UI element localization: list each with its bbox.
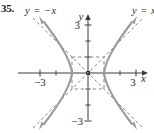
curve-right-branch-lower (104, 73, 132, 124)
curve-left-branch-lower (44, 73, 72, 124)
y-tick-label-3: 3 (75, 19, 81, 31)
arrow-right-lower-icon (132, 122, 137, 131)
y-axis-arrow-icon (85, 14, 91, 20)
curve-right-branch-upper (104, 22, 132, 73)
x-axis-label: x (140, 72, 146, 84)
arrow-right-upper-icon (132, 16, 137, 25)
y-tick-label-minus3: −3 (71, 115, 83, 127)
hyperbola-plot: x y −3 3 3 −3 y = −x y = x (0, 0, 154, 133)
x-tick-label-minus3: −3 (34, 76, 46, 88)
asymptote-label-right: y = x (131, 5, 154, 16)
arrow-left-lower-icon (39, 122, 44, 131)
axes-group (18, 14, 148, 120)
arrow-left-upper-icon (39, 16, 44, 25)
x-tick-label-3: 3 (130, 76, 136, 88)
figure-container: 35. (0, 0, 154, 133)
curve-left-branch-upper (44, 22, 72, 73)
asymptote-label-left: y = −x (24, 5, 57, 16)
